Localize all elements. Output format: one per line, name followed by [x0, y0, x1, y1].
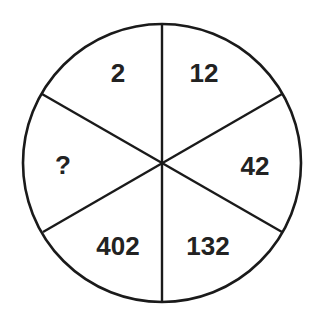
segment-top-right-value: 12	[190, 60, 219, 86]
wheel-graphic	[0, 0, 318, 318]
segment-left-unknown-value: ?	[55, 152, 71, 178]
segment-bottom-right-value: 132	[186, 233, 229, 259]
number-wheel-puzzle: 2 12 42 132 402 ?	[0, 0, 318, 318]
segment-bottom-left-value: 402	[96, 233, 139, 259]
segment-right-value: 42	[241, 153, 270, 179]
segment-top-left-value: 2	[111, 60, 125, 86]
